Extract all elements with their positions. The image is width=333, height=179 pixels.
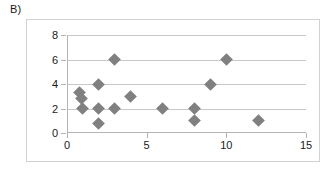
data-point: [92, 78, 105, 91]
x-tick-0: [67, 133, 68, 138]
data-point: [188, 114, 201, 127]
y-tick-2: [61, 109, 66, 110]
y-tick-label-8: 8: [52, 29, 58, 41]
x-tick-10: [226, 133, 227, 138]
gridline-y-6: [67, 60, 306, 61]
data-point: [188, 102, 201, 115]
data-point: [124, 90, 137, 103]
x-tick-label-0: 0: [64, 139, 70, 151]
y-tick-label-6: 6: [52, 54, 58, 66]
x-axis-line: [67, 132, 306, 133]
y-tick-4: [61, 84, 66, 85]
y-tick-label-2: 2: [52, 103, 58, 115]
y-tick-0: [61, 133, 66, 134]
y-tick-8: [61, 35, 66, 36]
plot-area: 02468 051015: [67, 35, 306, 133]
x-tick-label-10: 10: [220, 139, 232, 151]
data-point: [252, 114, 265, 127]
x-tick-5: [147, 133, 148, 138]
y-tick-label-0: 0: [52, 127, 58, 139]
data-point: [108, 53, 121, 66]
gridline-y-8: [67, 35, 306, 36]
y-tick-6: [61, 60, 66, 61]
panel-label: B): [10, 3, 21, 15]
y-axis-line: [67, 35, 68, 133]
data-point: [204, 78, 217, 91]
data-point: [92, 117, 105, 130]
x-tick-15: [306, 133, 307, 138]
data-point: [156, 102, 169, 115]
data-point: [220, 53, 233, 66]
y-tick-label-4: 4: [52, 78, 58, 90]
data-point: [77, 102, 90, 115]
data-point: [108, 102, 121, 115]
chart-frame: 02468 051015: [26, 19, 320, 162]
x-tick-label-5: 5: [144, 139, 150, 151]
data-point: [92, 102, 105, 115]
x-tick-label-15: 15: [300, 139, 312, 151]
